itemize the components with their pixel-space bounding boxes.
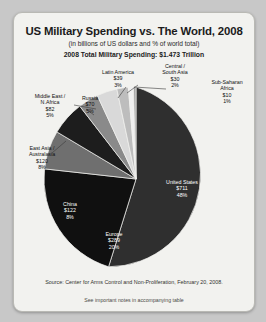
label-middle-east-n-africa: Middle East / N.Africa $82 5% (22, 93, 78, 118)
label-sub-saharan-africa-value: $10 (223, 92, 232, 98)
label-united-states-value: $711 (176, 185, 187, 191)
label-central-south-asia-name-1: Central / (165, 63, 185, 69)
label-russia-name: Russia (82, 95, 98, 101)
label-europe: Europe $289 20% (90, 231, 138, 250)
label-russia-value: $70 (86, 101, 95, 107)
label-latin-america-value: $39 (114, 75, 123, 81)
label-united-states: United States $711 48% (154, 179, 210, 198)
label-latin-america: Latin America $39 3% (90, 69, 146, 88)
label-europe-value: $289 (108, 237, 120, 243)
label-central-south-asia-value: $30 (171, 76, 180, 82)
pie-chart: Latin America $39 3% Central / South Asi… (14, 61, 254, 283)
label-central-south-asia-percent: 2% (171, 82, 179, 88)
total-spending-line: 2008 Total Military Spending: $1.473 Tri… (14, 51, 254, 58)
label-east-asia-percent: 8% (38, 164, 46, 170)
footnote-text: See important notes in accompanying tabl… (14, 297, 254, 303)
label-sub-saharan-africa-name-1: Sub-Saharan (211, 79, 242, 85)
page-title: US Military Spending vs. The World, 2008 (14, 25, 254, 37)
label-china-percent: 8% (66, 214, 74, 220)
label-china-name: China (63, 201, 77, 207)
label-russia-percent: 5% (86, 108, 94, 114)
label-middle-east-value: $82 (46, 106, 55, 112)
label-central-south-asia-name-2: South Asia (162, 69, 187, 75)
label-sub-saharan-africa-name-2: Africa (220, 85, 234, 91)
label-east-asia-name-2: Australasia (29, 151, 55, 157)
label-east-asia-name-1: East Asia / (29, 145, 54, 151)
label-middle-east-name-1: Middle East / (35, 93, 66, 99)
source-text: Source: Center for Arms Control and Non-… (14, 279, 254, 285)
label-sub-saharan-africa-percent: 1% (223, 98, 231, 104)
label-china-value: $122 (64, 207, 76, 213)
label-europe-name: Europe (105, 231, 122, 237)
label-east-asia-australasia: East Asia / Australasia $120 8% (15, 145, 69, 170)
label-united-states-percent: 48% (177, 192, 188, 198)
infographic-poster: US Military Spending vs. The World, 2008… (13, 12, 255, 312)
label-central-south-asia: Central / South Asia $30 2% (149, 63, 201, 88)
label-sub-saharan-africa: Sub-Saharan Africa $10 1% (199, 79, 255, 104)
label-latin-america-name: Latin America (102, 69, 134, 75)
label-latin-america-percent: 3% (114, 82, 122, 88)
label-united-states-name: United States (166, 179, 198, 185)
label-europe-percent: 20% (109, 244, 120, 250)
label-middle-east-percent: 5% (46, 112, 54, 118)
label-east-asia-value: $120 (36, 158, 48, 164)
label-russia: Russia $70 5% (72, 95, 108, 114)
label-middle-east-name-2: N.Africa (41, 99, 60, 105)
page-subtitle: (in billions of US dollars and % of worl… (14, 40, 254, 47)
label-china: China $122 8% (46, 201, 94, 220)
